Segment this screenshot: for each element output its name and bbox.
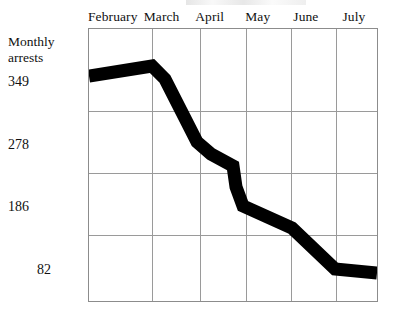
x-axis-label-july: July [330,7,378,27]
y-axis-caption-line-1: Monthly [8,34,84,50]
y-axis-value-278: 278 [8,137,80,153]
x-axis-label-march: March [138,7,186,27]
scan-artifact [186,0,306,5]
plot-svg [89,29,377,301]
y-axis-caption: Monthly arrests [8,34,84,66]
monthly-arrests-line-chart: February March April May June July Month… [0,0,393,327]
y-axis-value-82: 82 [8,262,80,278]
plot-area [88,28,378,302]
x-axis-month-labels: February March April May June July [88,7,378,27]
y-axis-value-349: 349 [8,74,80,90]
x-axis-label-may: May [234,7,282,27]
data-series-line [89,66,377,273]
y-axis-caption-line-2: arrests [8,50,84,66]
y-axis-value-186: 186 [8,199,80,215]
x-axis-label-february: February [88,7,138,27]
x-axis-label-june: June [282,7,330,27]
x-axis-label-april: April [186,7,234,27]
